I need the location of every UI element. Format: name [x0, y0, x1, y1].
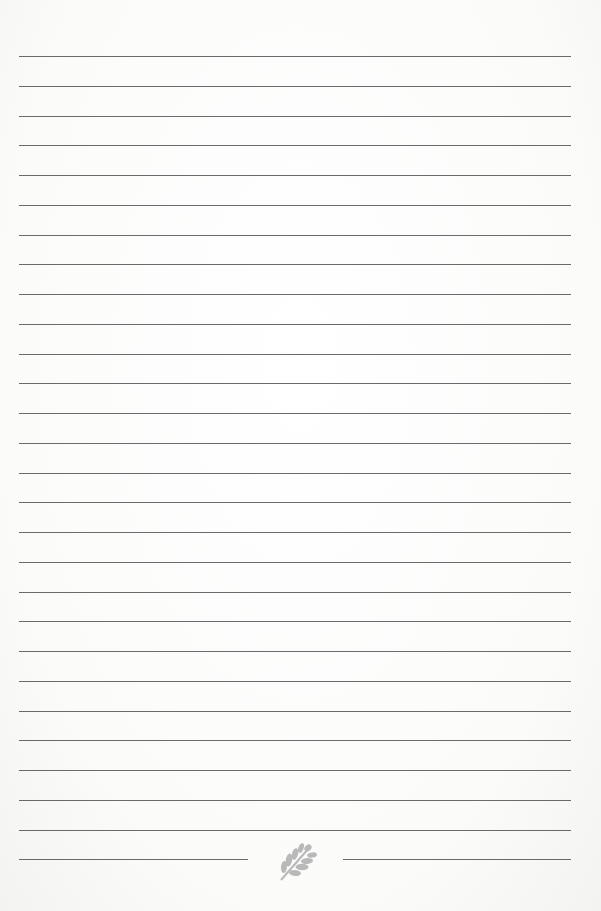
ruled-line — [19, 145, 571, 146]
footer-rule-left — [19, 859, 248, 860]
ruled-line — [19, 324, 571, 325]
ruled-line — [19, 264, 571, 265]
ruled-line — [19, 592, 571, 593]
ruled-line — [19, 443, 571, 444]
ruled-line — [19, 354, 571, 355]
ruled-line — [19, 86, 571, 87]
ruled-line — [19, 651, 571, 652]
ruled-line — [19, 502, 571, 503]
ruled-line — [19, 830, 571, 831]
ruled-line — [19, 205, 571, 206]
ruled-line — [19, 116, 571, 117]
ruled-line — [19, 294, 571, 295]
ruled-line — [19, 532, 571, 533]
ruled-line — [19, 740, 571, 741]
ruled-line — [19, 175, 571, 176]
ruled-line — [19, 473, 571, 474]
lined-paper-page — [0, 0, 601, 911]
leaf-icon — [275, 842, 319, 884]
footer-rule-right — [343, 859, 571, 860]
ruled-line — [19, 681, 571, 682]
ruled-line — [19, 56, 571, 57]
ruled-line — [19, 770, 571, 771]
ruled-line — [19, 800, 571, 801]
ruled-line — [19, 413, 571, 414]
ruled-line — [19, 562, 571, 563]
ruled-line — [19, 383, 571, 384]
ruled-line — [19, 621, 571, 622]
ruled-line — [19, 235, 571, 236]
ruled-line — [19, 711, 571, 712]
